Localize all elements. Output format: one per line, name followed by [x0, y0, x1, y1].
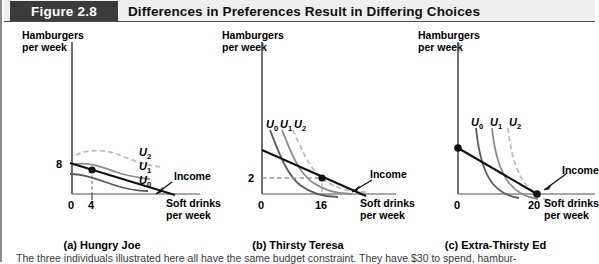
y-intercept-point-c — [454, 144, 462, 152]
curve-label-u0-a: U0 — [139, 174, 151, 189]
x-tick-label-16-b: 16 — [315, 199, 327, 211]
curve-label-u1-c: U1 — [490, 116, 502, 131]
figure-title: Differences in Preferences Result in Dif… — [128, 1, 480, 21]
x-tick-label-0-c: 0 — [454, 199, 460, 211]
panel-caption-a: (a) Hungry Joe — [4, 238, 200, 252]
curve-label-u2-a: U2 — [139, 146, 151, 161]
panel-extra-thirsty-ed: Hamburgers per week 0 20 U0 U1 — [396, 22, 595, 238]
x-tick-label-4-a: 4 — [88, 199, 94, 211]
budget-line-a — [70, 163, 175, 195]
optimum-point-a — [88, 166, 95, 173]
income-label-c: Income — [562, 164, 599, 176]
curve-label-u0-b: U0 — [266, 118, 278, 133]
panel-caption-b: (b) Thirsty Teresa — [200, 238, 396, 252]
x-tick-label-20-c: 20 — [528, 199, 540, 211]
x-tick-label-0-b: 0 — [258, 199, 264, 211]
curve-label-u0-c: U0 — [471, 116, 483, 131]
budget-line-b — [262, 150, 366, 196]
x-tick-label-0-a: 0 — [68, 199, 74, 211]
curve-label-u2-b: U2 — [294, 118, 306, 133]
panel-hungry-joe: Hamburgers per week 8 0 — [4, 22, 200, 238]
budget-line-c — [458, 148, 537, 194]
optimum-point-b — [318, 174, 325, 181]
curve-label-u2-c: U2 — [509, 116, 521, 131]
curve-label-u1-b: U1 — [280, 118, 292, 133]
figure-body-note: The three individuals illustrated here a… — [16, 252, 586, 264]
indifference-curve-u2-b — [293, 130, 368, 192]
curve-label-u1-a: U1 — [139, 160, 151, 175]
optimum-point-c — [533, 190, 541, 198]
y-tick-label-8-a: 8 — [56, 158, 62, 170]
panel-thirsty-teresa: Hamburgers per week 2 0 16 U0 — [200, 22, 396, 238]
indifference-curve-u0-b — [270, 130, 338, 197]
figure-header: Figure 2.8 Differences in Preferences Re… — [4, 0, 595, 22]
y-tick-label-2-b: 2 — [248, 172, 254, 184]
figure-number-tag: Figure 2.8 — [10, 1, 118, 21]
panel-caption-c: (c) Extra-Thirsty Ed — [396, 238, 595, 252]
x-axis-label-c: Soft drinks per week — [544, 198, 599, 221]
